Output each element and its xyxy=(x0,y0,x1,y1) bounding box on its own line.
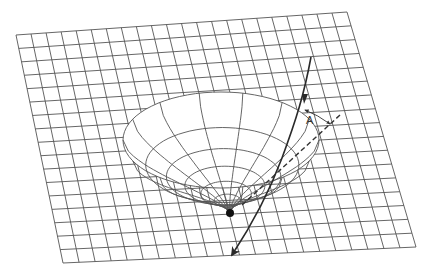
central-mass xyxy=(226,209,234,217)
gravity-well-diagram: A xyxy=(0,0,431,273)
spacetime-grid-sheet xyxy=(16,12,416,263)
gravity-well-funnel xyxy=(123,92,319,212)
undeflected-path xyxy=(242,115,340,205)
angle-label: A xyxy=(306,114,314,126)
